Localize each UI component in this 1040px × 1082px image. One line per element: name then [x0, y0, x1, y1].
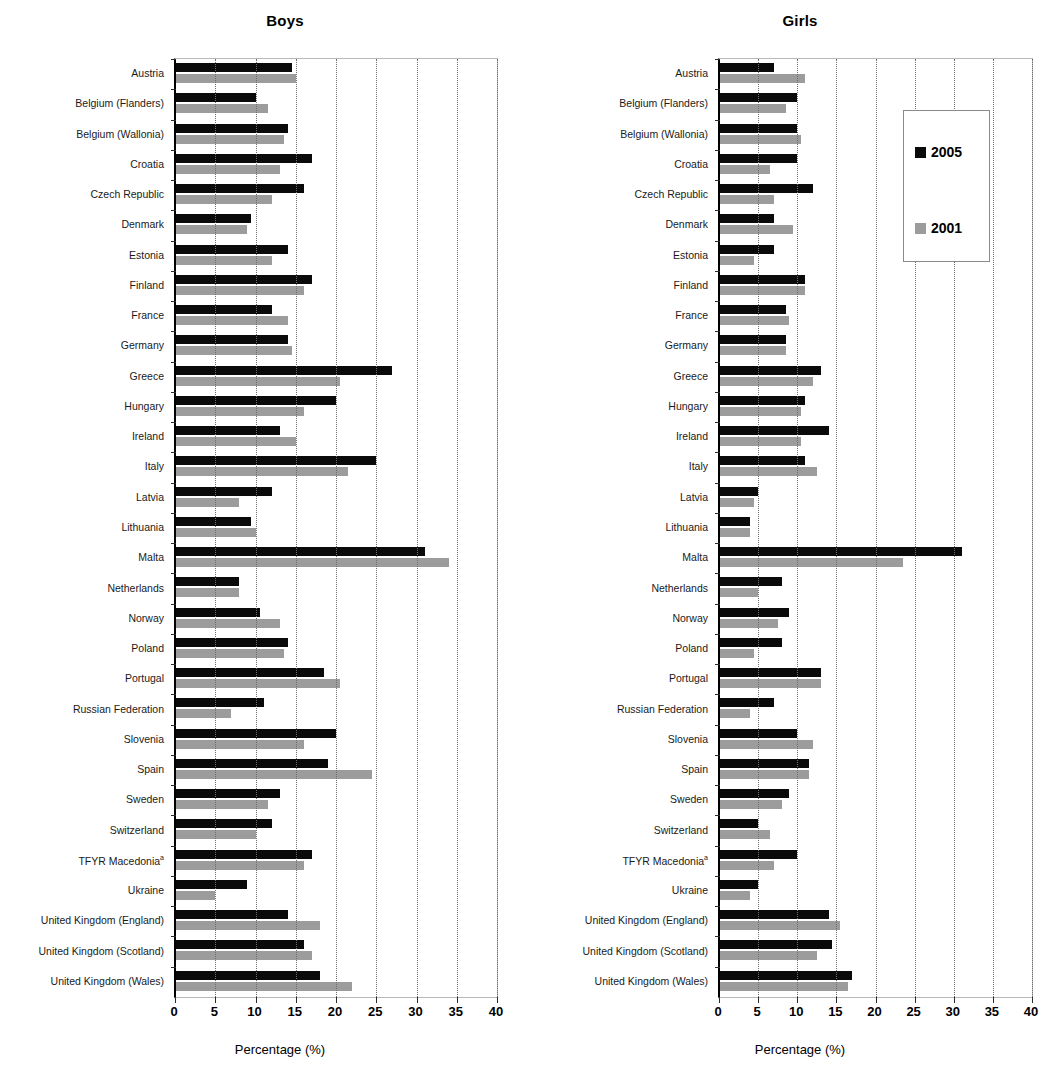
y-tick-7 — [715, 271, 720, 272]
gridline-0 — [719, 59, 720, 997]
x-tick-15 — [836, 997, 837, 1003]
chart-page: Boys AustriaBelgium (Flanders)Belgium (W… — [0, 0, 1040, 1082]
bar-2001-belgium-wallonia — [175, 135, 284, 144]
bar-2005-sweden — [719, 789, 789, 798]
bar-2001-finland — [719, 286, 805, 295]
x-tick-label-5: 5 — [211, 1004, 218, 1019]
bar-2001-ukraine — [719, 891, 750, 900]
bar-2001-lithuania — [719, 528, 750, 537]
bar-2005-finland — [175, 275, 312, 284]
bar-2005-ireland — [175, 426, 280, 435]
y-axis-label-finland: Finland — [130, 280, 164, 291]
y-tick-13 — [715, 452, 720, 453]
y-tick-4 — [715, 180, 720, 181]
y-tick-10 — [171, 362, 176, 363]
y-tick-22 — [715, 725, 720, 726]
y-axis-label-slovenia: Slovenia — [668, 734, 708, 745]
y-axis-label-ireland: Ireland — [132, 431, 164, 442]
y-axis-label-finland: Finland — [674, 280, 708, 291]
bar-2001-france — [719, 316, 789, 325]
bar-2005-estonia — [719, 245, 774, 254]
bar-2005-czech-republic — [175, 184, 304, 193]
y-axis-label-belgium-flanders: Belgium (Flanders) — [75, 98, 164, 109]
bar-2001-belgium-wallonia — [719, 135, 801, 144]
bar-2001-tfyr-macedonia — [719, 861, 774, 870]
bar-2005-russian-federation — [175, 698, 264, 707]
bar-2005-denmark — [175, 214, 251, 223]
y-axis-label-czech-republic: Czech Republic — [634, 189, 708, 200]
bar-2001-croatia — [719, 165, 770, 174]
gridline-0 — [175, 59, 176, 997]
x-tick-0 — [175, 997, 176, 1003]
x-tick-15 — [296, 997, 297, 1003]
x-axis-labels-boys: 0510152025303540 — [174, 1004, 498, 1024]
y-axis-label-ireland: Ireland — [676, 431, 708, 442]
y-axis-label-greece: Greece — [130, 370, 164, 381]
bar-2001-france — [175, 316, 288, 325]
x-tick-40 — [1032, 997, 1033, 1003]
bar-2005-united-kingdom-scotland — [175, 940, 304, 949]
legend-item-2001: 2001 — [915, 220, 962, 236]
bar-2005-united-kingdom-wales — [719, 971, 852, 980]
y-axis-label-italy: Italy — [689, 461, 708, 472]
bar-2005-united-kingdom-england — [719, 910, 829, 919]
x-tick-40 — [497, 997, 498, 1003]
bar-2001-latvia — [175, 498, 239, 507]
bar-2001-italy — [719, 467, 817, 476]
bar-2005-united-kingdom-scotland — [719, 940, 832, 949]
y-axis-label-germany: Germany — [665, 340, 708, 351]
y-tick-21 — [171, 694, 176, 695]
bar-2001-czech-republic — [719, 195, 774, 204]
y-axis-label-portugal: Portugal — [669, 673, 708, 684]
y-tick-5 — [715, 210, 720, 211]
y-axis-label-greece: Greece — [674, 370, 708, 381]
bar-2001-denmark — [719, 225, 793, 234]
x-tick-30 — [954, 997, 955, 1003]
bar-2001-united-kingdom-england — [719, 921, 840, 930]
y-axis-label-lithuania: Lithuania — [121, 522, 164, 533]
gridline-25 — [376, 59, 377, 997]
y-axis-label-estonia: Estonia — [673, 249, 708, 260]
y-axis-label-netherlands: Netherlands — [107, 582, 164, 593]
bar-2001-portugal — [719, 679, 821, 688]
bar-2001-united-kingdom-scotland — [175, 951, 312, 960]
y-tick-11 — [715, 392, 720, 393]
bar-2001-greece — [719, 377, 813, 386]
gridline-20 — [876, 59, 877, 997]
bar-2005-norway — [175, 608, 260, 617]
y-tick-9 — [171, 331, 176, 332]
y-tick-28 — [715, 906, 720, 907]
bar-2005-switzerland — [175, 819, 272, 828]
bar-2001-norway — [719, 619, 778, 628]
x-tick-label-10: 10 — [247, 1004, 261, 1019]
y-tick-16 — [715, 543, 720, 544]
bar-2005-croatia — [175, 154, 312, 163]
x-tick-label-40: 40 — [1024, 1004, 1038, 1019]
bar-2001-netherlands — [719, 588, 758, 597]
gridline-5 — [215, 59, 216, 997]
bar-2005-poland — [719, 638, 782, 647]
y-axis-label-united-kingdom-scotland: United Kingdom (Scotland) — [583, 945, 708, 956]
y-axis-label-norway: Norway — [128, 613, 164, 624]
bar-2005-italy — [175, 456, 376, 465]
bar-2005-switzerland — [719, 819, 758, 828]
bar-2005-estonia — [175, 245, 288, 254]
y-axis-label-hungary: Hungary — [124, 401, 164, 412]
y-tick-5 — [171, 210, 176, 211]
bar-2001-germany — [719, 346, 786, 355]
y-tick-24 — [715, 785, 720, 786]
y-axis-label-germany: Germany — [121, 340, 164, 351]
bar-2001-hungary — [719, 407, 801, 416]
y-tick-30 — [171, 967, 176, 968]
bar-2001-united-kingdom-england — [175, 921, 320, 930]
gridline-20 — [336, 59, 337, 997]
bar-2005-belgium-wallonia — [175, 124, 288, 133]
gridline-10 — [797, 59, 798, 997]
bar-2005-tfyr-macedonia — [175, 850, 312, 859]
y-axis-label-tfyr-macedonia: TFYR Macedoniaa — [78, 854, 164, 866]
bar-2005-greece — [175, 366, 392, 375]
bar-2001-switzerland — [719, 830, 770, 839]
bar-2001-united-kingdom-scotland — [719, 951, 817, 960]
y-axis-labels-boys: AustriaBelgium (Flanders)Belgium (Wallon… — [0, 58, 170, 998]
y-tick-11 — [171, 392, 176, 393]
